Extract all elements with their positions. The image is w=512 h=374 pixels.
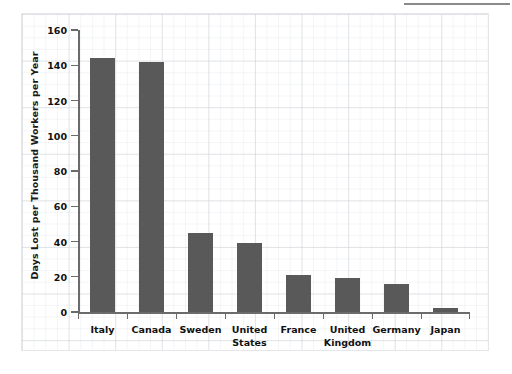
bar-chart: Days Lost per Thousand Workers per Year … <box>0 0 512 374</box>
y-axis-tick-label: 40 <box>54 236 67 247</box>
bar <box>188 233 213 312</box>
bar <box>286 275 311 312</box>
y-axis-tick <box>71 311 78 312</box>
y-axis-tick-label: 140 <box>47 60 67 71</box>
plot-area: 020406080100120140160ItalyCanadaSwedenUn… <box>78 30 470 312</box>
bar <box>335 278 360 312</box>
bar <box>384 284 409 312</box>
bar <box>139 62 164 312</box>
x-axis-category-label: Germany <box>372 324 421 337</box>
x-axis-category-label: Japan <box>421 324 470 337</box>
y-axis-tick <box>71 170 78 171</box>
y-axis-tick-label: 60 <box>54 201 67 212</box>
x-axis-category-label: France <box>274 324 323 337</box>
y-axis-tick-label: 160 <box>47 25 67 36</box>
x-axis-tick <box>176 312 177 319</box>
x-axis-category-label: Sweden <box>176 324 225 337</box>
x-axis-category-label: United States <box>225 324 274 349</box>
x-axis-tick <box>225 312 226 319</box>
x-axis-category-label: United Kingdom <box>323 324 372 349</box>
y-axis-tick <box>71 206 78 207</box>
bar <box>90 58 115 312</box>
y-axis-tick-label: 80 <box>54 166 67 177</box>
bar <box>237 243 262 312</box>
x-axis-tick <box>323 312 324 319</box>
y-axis-tick-label: 120 <box>47 95 67 106</box>
x-axis-tick <box>274 312 275 319</box>
y-axis-title: Days Lost per Thousand Workers per Year <box>29 36 40 296</box>
x-axis-tick <box>469 312 470 319</box>
x-axis-tick <box>421 312 422 319</box>
x-axis-tick <box>127 312 128 319</box>
y-axis-tick-label: 20 <box>54 271 67 282</box>
y-axis-line <box>78 30 80 312</box>
x-axis-tick <box>78 312 79 319</box>
x-axis-category-label: Italy <box>78 324 127 337</box>
y-axis-tick <box>71 276 78 277</box>
y-axis-tick-label: 100 <box>47 130 67 141</box>
y-axis-tick <box>71 241 78 242</box>
x-axis-category-label: Canada <box>127 324 176 337</box>
y-axis-tick-label: 0 <box>60 307 67 318</box>
y-axis-tick <box>71 29 78 30</box>
y-axis-tick <box>71 65 78 66</box>
bar <box>433 308 458 312</box>
y-axis-tick <box>71 135 78 136</box>
x-axis-tick <box>372 312 373 319</box>
y-axis-tick <box>71 100 78 101</box>
